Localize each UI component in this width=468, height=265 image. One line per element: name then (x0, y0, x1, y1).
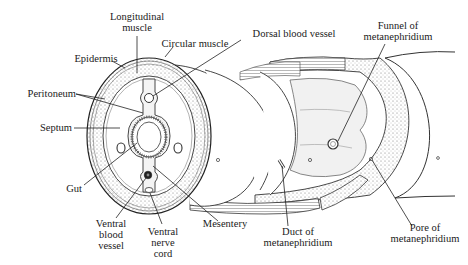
label-mesentery: Mesentery (192, 218, 258, 229)
label-duct-of-metanephridium: Duct of metanephridium (250, 226, 346, 248)
label-gut: Gut (56, 183, 82, 194)
label-ventral-nerve-cord: Ventral nerve cord (140, 226, 186, 259)
label-funnel-of-metanephridium: Funnel of metanephridium (350, 20, 446, 42)
label-septum: Septum (30, 122, 72, 133)
label-longitudinal-muscle: Longitudinal muscle (98, 11, 176, 33)
earthworm-anatomy-diagram: Longitudinal muscle Circular muscle Dors… (0, 0, 468, 265)
label-peritoneum: Peritoneum (14, 88, 76, 99)
label-circular-muscle: Circular muscle (147, 38, 243, 49)
label-pore-of-metanephridium: Pore of metanephridium (382, 222, 468, 244)
label-ventral-blood-vessel: Ventral blood vessel (86, 218, 136, 251)
label-dorsal-blood-vessel: Dorsal blood vessel (232, 28, 356, 39)
front-cross-section (87, 58, 211, 214)
pore-dot (437, 157, 440, 160)
label-epidermis: Epidermis (68, 53, 124, 64)
